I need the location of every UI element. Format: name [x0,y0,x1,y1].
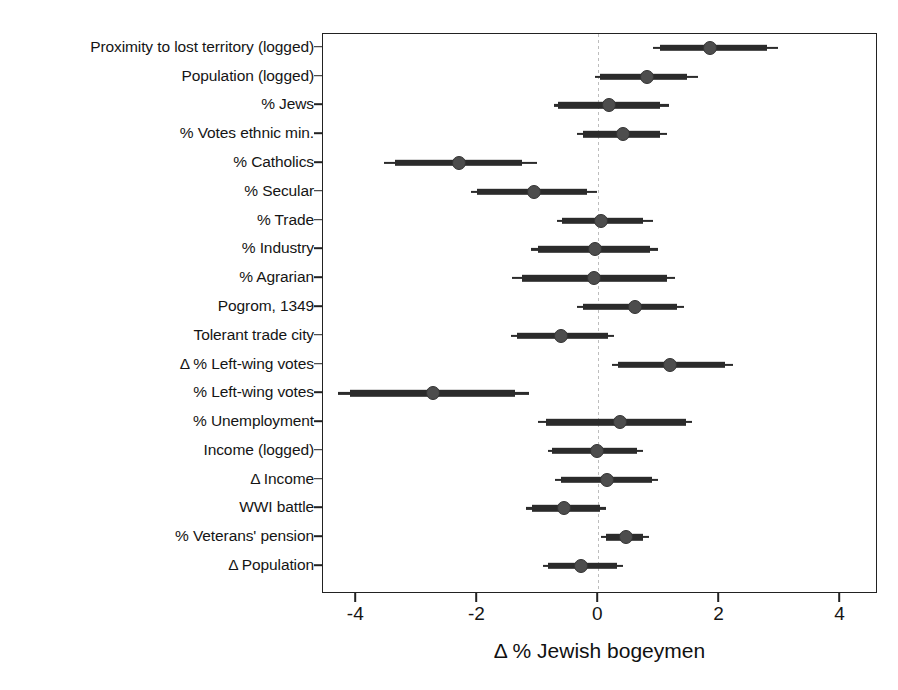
y-axis-tick [314,363,322,365]
y-axis-tick [314,104,322,106]
point-estimate-marker [426,386,440,400]
y-axis-label: WWI battle [0,499,314,515]
x-axis-tick [718,593,720,602]
y-axis-label: % Trade [0,212,314,228]
point-estimate-marker [588,242,602,256]
y-axis-tick [314,449,322,451]
point-estimate-marker [554,329,568,343]
estimate-row [323,95,876,115]
y-axis-label: % Jews [0,96,314,112]
y-axis-tick [314,248,322,250]
y-axis-tick [314,190,322,192]
point-estimate-marker [703,41,717,55]
point-estimate-marker [557,501,571,515]
y-axis-label: % Unemployment [0,413,314,429]
estimate-row [323,268,876,288]
x-axis-tick-label: -2 [468,603,485,625]
point-estimate-marker [663,358,677,372]
estimate-row [323,239,876,259]
point-estimate-marker [613,415,627,429]
y-axis-label: Δ Population [0,557,314,573]
estimate-row [323,211,876,231]
estimate-row [323,153,876,173]
y-axis-tick [314,161,322,163]
x-axis: -4-2024 [322,593,877,633]
y-axis-label: % Left-wing votes [0,384,314,400]
estimate-row [323,556,876,576]
y-axis-category-labels: Proximity to lost territory (logged)Popu… [0,33,314,593]
point-estimate-marker [590,444,604,458]
y-axis-label: % Catholics [0,154,314,170]
point-estimate-marker [616,127,630,141]
y-axis-tick [314,535,322,537]
x-axis-tick-label: 4 [834,603,845,625]
estimate-row [323,412,876,432]
y-axis-label: % Industry [0,240,314,256]
coefficient-plot-figure: Proximity to lost territory (logged)Popu… [0,0,898,690]
estimate-row [323,326,876,346]
y-axis-label: Proximity to lost territory (logged) [0,39,314,55]
plot-area [322,33,877,593]
x-axis-tick-label: -4 [347,603,364,625]
y-axis-tick [314,392,322,394]
x-axis-tick [839,593,841,602]
y-axis-label: Pogrom, 1349 [0,298,314,314]
estimate-row [323,498,876,518]
estimate-row [323,297,876,317]
y-axis-tick [314,564,322,566]
x-axis-tick [354,593,356,602]
x-axis-tick-label: 2 [713,603,724,625]
point-estimate-marker [594,214,608,228]
point-estimate-marker [574,559,588,573]
y-axis-label: % Veterans' pension [0,528,314,544]
estimate-row [323,470,876,490]
y-axis-tick [314,276,322,278]
estimate-row [323,182,876,202]
estimate-row [323,527,876,547]
x-axis-title: Δ % Jewish bogeymen [322,638,877,664]
estimate-row [323,383,876,403]
y-axis-tick [314,507,322,509]
y-axis-tick [314,334,322,336]
estimate-row [323,38,876,58]
y-axis-tick [314,305,322,307]
y-axis-label: Δ Income [0,471,314,487]
estimate-row [323,355,876,375]
point-estimate-marker [640,70,654,84]
point-estimate-marker [619,530,633,544]
x-axis-tick-label: 0 [592,603,603,625]
estimate-row [323,67,876,87]
point-estimate-marker [602,98,616,112]
y-axis-tick [314,219,322,221]
y-axis-tick [314,420,322,422]
x-axis-tick [476,593,478,602]
y-axis-label: % Secular [0,183,314,199]
point-estimate-marker [452,156,466,170]
estimate-row [323,124,876,144]
y-axis-label: % Agrarian [0,269,314,285]
point-estimate-marker [527,185,541,199]
y-axis-label: Income (logged) [0,442,314,458]
y-axis-label: Tolerant trade city [0,327,314,343]
y-axis-label: Population (logged) [0,68,314,84]
y-axis-tick [314,132,322,134]
x-axis-tick [597,593,599,602]
y-axis-tick [314,478,322,480]
y-axis-label: Δ % Left-wing votes [0,356,314,372]
estimate-row [323,441,876,461]
y-axis-tick [314,75,322,77]
y-axis-tick [314,46,322,48]
point-estimate-marker [628,300,642,314]
point-estimate-marker [600,473,614,487]
y-axis-label: % Votes ethnic min. [0,125,314,141]
point-estimate-marker [587,271,601,285]
